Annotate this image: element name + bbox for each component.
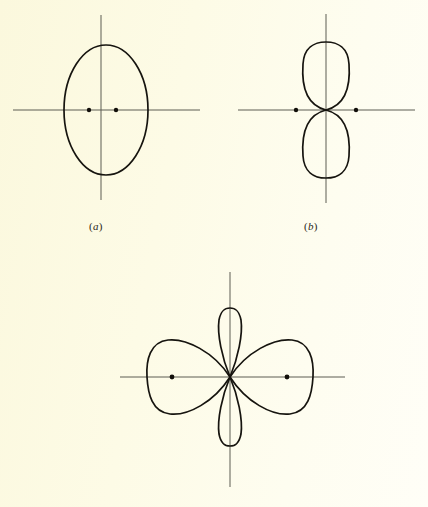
figure-b-label-close: ) [314,220,318,232]
figure-panel-container: (a) (b) [0,0,428,507]
figure-c-quadrupole [0,0,428,507]
figure-c-focus-right [285,375,290,380]
figure-a-label: (a) [89,220,103,232]
figure-a-label-close: ) [99,220,103,232]
figure-c-focus-left [170,375,175,380]
figure-b-label: (b) [304,220,318,232]
